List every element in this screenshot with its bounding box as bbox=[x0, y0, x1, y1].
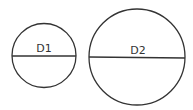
label-d2: D2 bbox=[130, 44, 145, 57]
circle-d2-group: D2 bbox=[89, 9, 185, 105]
diameter-d2-line bbox=[89, 57, 185, 58]
label-d1: D1 bbox=[36, 42, 51, 55]
circles-diagram: D1 D2 bbox=[0, 0, 193, 110]
circle-d1-group: D1 bbox=[12, 24, 76, 88]
